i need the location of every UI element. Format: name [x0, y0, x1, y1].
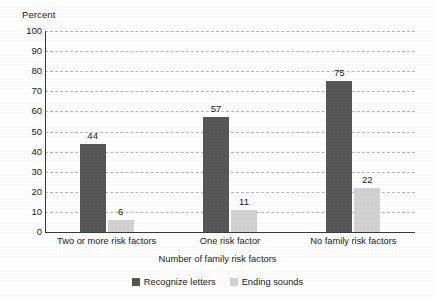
y-tick-label-90: 90: [2, 46, 42, 56]
bar-value-label: 11: [224, 197, 264, 207]
x-tick-label: Two or more risk factors: [45, 236, 168, 247]
x-tick-label: One risk factor: [168, 236, 291, 247]
bar-groups: 44657117522: [45, 31, 415, 232]
bar-value-label: 44: [73, 131, 113, 141]
legend-item[interactable]: Ending sounds: [230, 277, 304, 287]
x-axis-tick-labels: Two or more risk factorsOne risk factorN…: [45, 236, 415, 250]
y-tick-label-20: 20: [2, 187, 42, 197]
bar-value-label: 22: [347, 175, 387, 185]
y-axis-title: Percent: [22, 9, 55, 20]
y-tick-label-40: 40: [2, 147, 42, 157]
bar-value-label: 57: [196, 104, 236, 114]
bar-value-label: 6: [101, 207, 141, 217]
bar: [80, 144, 106, 232]
bar-chart: Percent 1009080706050403020100 446571175…: [0, 0, 435, 299]
y-tick-label-60: 60: [2, 106, 42, 116]
y-tick-label-10: 10: [2, 207, 42, 217]
y-tick-label-100: 100: [2, 26, 42, 36]
chart-legend: Recognize lettersEnding sounds: [0, 277, 435, 287]
bar: [108, 220, 134, 232]
x-axis-line: [45, 232, 415, 233]
bar-group: 7522: [292, 31, 415, 232]
x-tick-label: No family risk factors: [292, 236, 415, 247]
bar-value-label: 75: [319, 68, 359, 78]
bar-group: 5711: [168, 31, 291, 232]
y-tick-label-30: 30: [2, 167, 42, 177]
y-tick-label-50: 50: [2, 127, 42, 137]
legend-swatch-icon: [230, 278, 238, 286]
bar: [354, 188, 380, 232]
legend-item[interactable]: Recognize letters: [132, 277, 216, 287]
y-axis-tick-labels: 1009080706050403020100: [0, 31, 42, 232]
y-tick-label-70: 70: [2, 86, 42, 96]
y-tick-label-0: 0: [2, 227, 42, 237]
legend-label: Recognize letters: [144, 277, 216, 287]
y-tick-label-80: 80: [2, 66, 42, 76]
bar: [326, 81, 352, 232]
legend-label: Ending sounds: [242, 277, 304, 287]
x-axis-title: Number of family risk factors: [0, 254, 435, 264]
bar: [231, 210, 257, 232]
legend-swatch-icon: [132, 278, 140, 286]
bar: [203, 117, 229, 232]
bar-group: 446: [45, 31, 168, 232]
